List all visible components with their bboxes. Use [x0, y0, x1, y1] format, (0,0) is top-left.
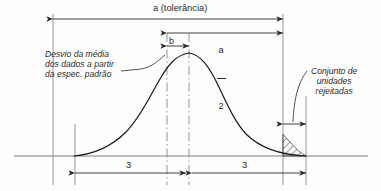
tolerance-distribution-figure: a (tolerância) a 2 b Desvio da média dos…	[0, 0, 381, 191]
rejected-note-leader	[293, 71, 307, 122]
sigma-left-label: 3	[126, 160, 131, 171]
rejected-note-label: Conjunto de unidades rejeitadas	[311, 66, 357, 96]
deviation-note-label: Desvio da média dos dados a partir da es…	[45, 49, 114, 79]
fraction-bar	[217, 78, 226, 79]
half-tolerance-label: a 2	[213, 24, 229, 133]
rejected-units-hatch	[283, 135, 306, 157]
half-tolerance-denominator: 2	[213, 101, 229, 111]
deviation-note-leader	[121, 55, 165, 71]
half-tolerance-numerator: a	[213, 46, 229, 55]
offset-b-label: b	[169, 36, 174, 47]
tolerance-label: a (tolerância)	[153, 3, 207, 14]
sigma-right-label: 3	[242, 160, 247, 171]
